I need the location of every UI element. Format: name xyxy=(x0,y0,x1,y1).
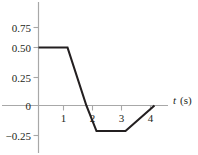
y-tick-label-075: 0.75 xyxy=(12,22,32,34)
chart-figure: 0.75 0.50 0.25 0 −0.25 1 2 3 4 t (s) xyxy=(0,0,198,155)
y-tick-label-050: 0.50 xyxy=(12,42,32,54)
x-axis-label-unit: (s) xyxy=(180,94,192,107)
y-axis-ticks xyxy=(34,28,39,136)
x-axis-label-symbol: t xyxy=(173,94,177,106)
data-curve-signal xyxy=(39,48,155,132)
chart-plot-area: 0.75 0.50 0.25 0 −0.25 1 2 3 4 t (s) xyxy=(0,0,198,155)
y-tick-label-neg025: −0.25 xyxy=(6,130,32,142)
y-tick-label-0: 0 xyxy=(26,100,32,112)
x-tick-label-1: 1 xyxy=(61,112,67,124)
x-tick-label-3: 3 xyxy=(119,112,125,124)
x-axis-ticks xyxy=(64,106,151,111)
x-tick-label-4: 4 xyxy=(148,112,154,124)
y-tick-label-025: 0.25 xyxy=(12,72,32,84)
